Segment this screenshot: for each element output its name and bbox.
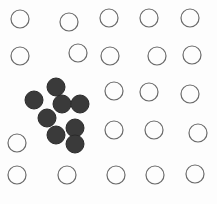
open-circle <box>140 83 158 101</box>
open-circle <box>11 10 29 28</box>
open-circle <box>186 165 204 183</box>
open-circle <box>181 85 199 103</box>
filled-circle <box>66 135 84 153</box>
open-circle <box>148 47 166 65</box>
open-circle <box>60 13 78 31</box>
diagram-svg <box>0 0 217 204</box>
open-circle <box>189 124 207 142</box>
open-circle <box>181 9 199 27</box>
open-circle <box>183 46 201 64</box>
filled-circle <box>47 78 65 96</box>
open-circle <box>58 166 76 184</box>
open-circle <box>8 166 26 184</box>
filled-circle <box>71 95 89 113</box>
filled-circle <box>47 126 65 144</box>
open-circle <box>100 9 118 27</box>
open-circle <box>105 82 123 100</box>
open-circle <box>107 166 125 184</box>
open-circle <box>146 166 164 184</box>
open-circle <box>145 121 163 139</box>
filled-circle <box>25 91 43 109</box>
open-circle <box>11 47 29 65</box>
filled-circle <box>53 95 71 113</box>
open-circle <box>69 44 87 62</box>
open-circle <box>101 47 119 65</box>
filled-circle <box>38 109 56 127</box>
circle-grid-diagram <box>0 0 217 204</box>
open-circle <box>105 121 123 139</box>
filled-circle <box>66 119 84 137</box>
open-circle <box>8 134 26 152</box>
open-circle <box>140 9 158 27</box>
